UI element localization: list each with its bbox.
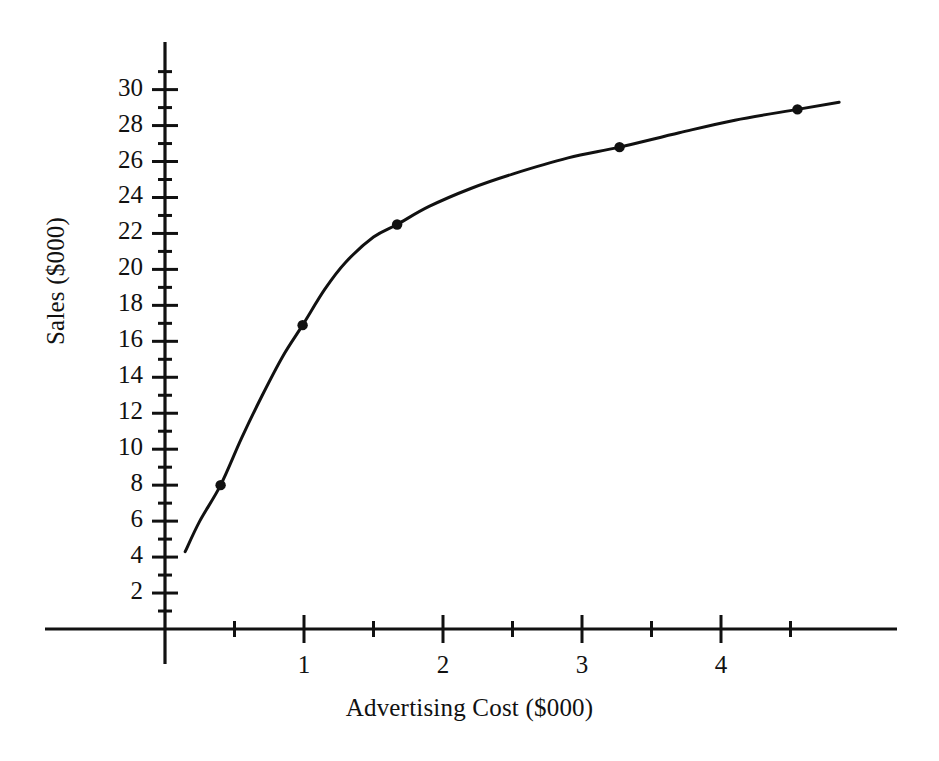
data-point-marker xyxy=(297,320,307,330)
data-point-marker xyxy=(792,104,802,114)
data-point-marker xyxy=(392,219,402,229)
y-axis-tick-label: 24 xyxy=(83,181,143,209)
data-series-curve xyxy=(185,102,839,552)
y-axis-tick-label: 18 xyxy=(83,289,143,317)
y-axis-tick-label: 26 xyxy=(83,146,143,174)
y-axis-tick-label: 8 xyxy=(83,469,143,497)
y-axis-tick-label: 4 xyxy=(83,541,143,569)
x-axis-title: Advertising Cost ($000) xyxy=(0,694,939,722)
y-axis-title-container: Sales ($000) xyxy=(42,217,70,345)
x-axis-tick-label: 2 xyxy=(413,651,473,679)
axes-group xyxy=(45,42,897,664)
y-axis-tick-label: 20 xyxy=(83,253,143,281)
chart-figure: 246810121416182022242628301234 Sales ($0… xyxy=(0,0,939,761)
y-axis-tick-label: 6 xyxy=(83,505,143,533)
data-point-markers xyxy=(215,104,802,490)
y-axis-tick-label: 10 xyxy=(83,433,143,461)
x-axis-tick-label: 1 xyxy=(274,651,334,679)
y-axis-tick-label: 22 xyxy=(83,217,143,245)
y-axis-tick-label: 30 xyxy=(83,74,143,102)
x-axis-tick-label: 3 xyxy=(552,651,612,679)
y-axis-tick-label: 2 xyxy=(83,577,143,605)
x-axis-tick-label: 4 xyxy=(691,651,751,679)
series-line xyxy=(185,102,839,552)
axis-ticks-group xyxy=(152,72,791,643)
y-axis-tick-label: 14 xyxy=(83,361,143,389)
data-point-marker xyxy=(614,142,624,152)
y-axis-title: Sales ($000) xyxy=(42,217,70,345)
data-point-marker xyxy=(215,480,225,490)
y-axis-tick-label: 16 xyxy=(83,325,143,353)
y-axis-tick-label: 28 xyxy=(83,110,143,138)
y-axis-tick-label: 12 xyxy=(83,397,143,425)
